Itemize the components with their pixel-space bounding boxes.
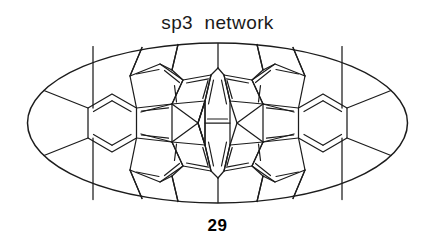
figure-number-label: 29 xyxy=(0,216,435,236)
central-core-rings xyxy=(198,75,237,171)
lower-right-ring-cluster xyxy=(218,134,305,202)
upper-right-ring-cluster xyxy=(218,45,305,113)
figure-canvas: sp3 network xyxy=(0,0,435,249)
molecular-structure-diagram xyxy=(0,0,435,249)
